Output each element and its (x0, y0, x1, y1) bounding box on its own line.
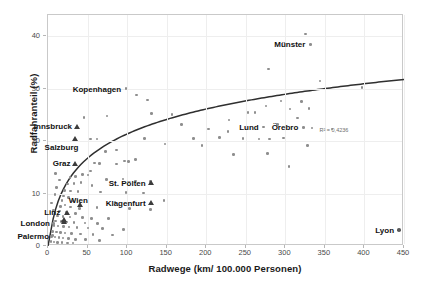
x-tick-label: 0 (45, 248, 49, 257)
point-label: Lyon (375, 225, 397, 234)
data-point-circle (56, 241, 59, 244)
point-label: Wien (69, 195, 91, 204)
data-point-circle (192, 137, 195, 140)
data-point-circle (90, 217, 93, 220)
data-point-circle (81, 216, 84, 219)
point-label: Innsbruck (34, 122, 75, 131)
scatter-chart: Radfahranteil (%) Radwege (km/ 100.000 P… (0, 0, 424, 282)
point-label: Kopenhagen (73, 84, 124, 93)
y-tick-label: 40 (22, 31, 40, 40)
y-tick-label: 0 (22, 241, 40, 250)
data-point-circle (150, 112, 153, 115)
gridline-horizontal (48, 36, 402, 37)
data-point-circle (96, 222, 99, 225)
data-point-circle (67, 237, 70, 240)
data-point-circle (143, 137, 146, 140)
gridline-vertical (167, 15, 168, 244)
data-point-circle (134, 158, 137, 161)
data-point-circle (302, 126, 305, 129)
data-point-triangle (64, 210, 70, 215)
data-point-circle (54, 172, 57, 175)
y-tick-mark (43, 193, 46, 194)
data-point-circle (58, 179, 61, 182)
y-axis-title: Radfahranteil (%) (28, 34, 39, 194)
x-tick-mark (284, 245, 285, 248)
data-point-triangle (72, 136, 78, 141)
gridline-vertical (88, 15, 89, 244)
data-point-circle (92, 233, 95, 236)
x-tick-label: 300 (278, 248, 291, 257)
data-point-circle (89, 138, 92, 141)
x-tick-mark (324, 245, 325, 248)
data-point-circle (66, 242, 69, 245)
point-label: Münster (274, 40, 308, 49)
x-tick-mark (245, 245, 246, 248)
data-point-circle (55, 231, 58, 234)
x-tick-label: 200 (199, 248, 212, 257)
data-point-circle (306, 144, 309, 147)
point-label: London (21, 219, 53, 228)
data-point-circle (62, 225, 65, 228)
y-tick-label: 20 (22, 136, 40, 145)
data-point-circle (127, 160, 130, 163)
y-tick-mark (43, 245, 46, 246)
data-point-circle (50, 240, 53, 243)
data-point-circle (96, 206, 99, 209)
point-label: Salzburg (45, 143, 82, 152)
data-point-circle (308, 107, 311, 110)
data-point-circle (79, 233, 82, 236)
data-point-circle (77, 190, 80, 193)
x-tick-label: 100 (120, 248, 133, 257)
data-point-circle (55, 186, 58, 189)
gridline-vertical (364, 15, 365, 244)
plot-area (47, 14, 403, 245)
data-point-circle (171, 113, 174, 116)
x-tick-mark (363, 245, 364, 248)
data-point-circle (268, 138, 271, 141)
x-tick-label: 50 (82, 248, 90, 257)
x-tick-mark (166, 245, 167, 248)
y-tick-mark (43, 140, 46, 141)
x-tick-label: 450 (397, 248, 410, 257)
data-point-circle (54, 193, 57, 196)
x-tick-mark (403, 245, 404, 248)
data-point-circle (201, 144, 204, 147)
point-label: Örebro (272, 123, 302, 132)
r-squared-annotation: R² = 0,4236 (319, 127, 348, 133)
x-tick-mark (126, 245, 127, 248)
data-point-circle (74, 175, 77, 178)
data-point-circle (105, 178, 108, 181)
x-tick-label: 400 (357, 248, 370, 257)
data-point-circle (397, 228, 401, 232)
data-point-circle (309, 43, 312, 46)
data-point-circle (59, 231, 62, 234)
x-tick-mark (87, 245, 88, 248)
point-label: Graz (53, 159, 74, 168)
data-point-circle (74, 212, 77, 215)
data-point-circle (122, 228, 125, 231)
x-tick-mark (205, 245, 206, 248)
data-point-circle (89, 170, 92, 173)
data-point-circle (74, 238, 77, 241)
data-point-triangle (61, 219, 67, 224)
data-point-circle (104, 150, 107, 153)
data-point-circle (128, 207, 131, 210)
data-point-circle (135, 94, 138, 97)
y-tick-label: 30 (22, 83, 40, 92)
point-label: Klagenfurt (106, 199, 149, 208)
data-point-circle (73, 182, 76, 185)
point-label: Linz (44, 207, 63, 216)
data-point-circle (70, 232, 73, 235)
y-tick-mark (43, 35, 46, 36)
data-point-circle (232, 153, 235, 156)
data-point-circle (218, 136, 221, 139)
point-label: Lund (239, 122, 262, 131)
data-point-circle (180, 123, 183, 126)
data-point-circle (73, 221, 76, 224)
data-point-circle (266, 152, 269, 155)
data-point-circle (282, 137, 285, 140)
data-point-circle (101, 227, 104, 230)
data-point-circle (63, 189, 66, 192)
trendline (48, 15, 404, 246)
data-point-circle (300, 100, 303, 103)
